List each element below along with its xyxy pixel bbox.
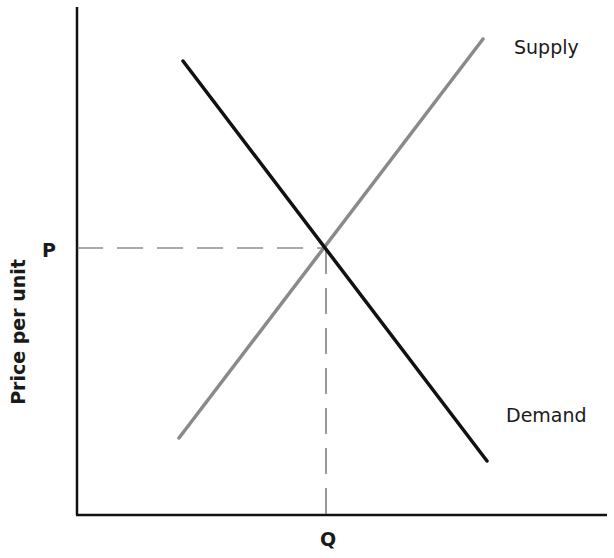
supply-label: Supply	[514, 36, 579, 58]
supply-curve	[179, 39, 483, 438]
y-axis-title: Price per unit	[7, 259, 29, 405]
demand-label: Demand	[506, 404, 587, 426]
demand-curve	[183, 61, 487, 461]
price-tick-label: P	[42, 239, 56, 261]
quantity-tick-label: Q	[320, 528, 336, 550]
supply-demand-chart: Supply Demand P Q Price per unit	[0, 0, 614, 558]
